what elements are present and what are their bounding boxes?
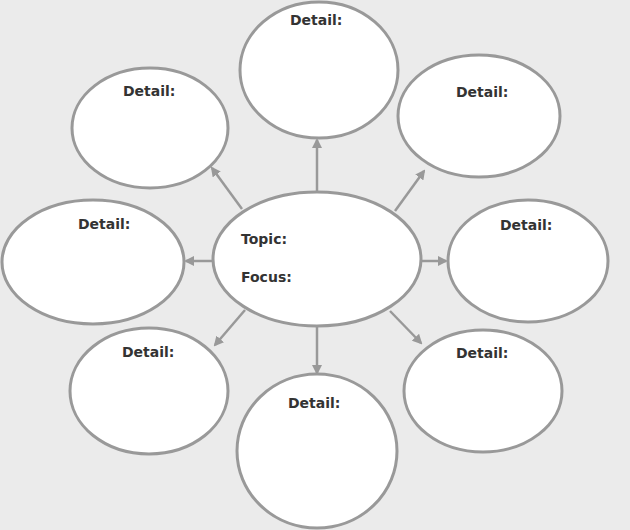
cluster-diagram [0, 0, 630, 530]
detail-label-top-left: Detail: [123, 83, 175, 99]
arrow-to-bottom-left [215, 310, 245, 345]
detail-label-top-right: Detail: [456, 84, 508, 100]
detail-label-bottom: Detail: [288, 395, 340, 411]
arrow-to-top-right [395, 171, 424, 211]
arrow-to-top-left [212, 168, 242, 209]
detail-label-right: Detail: [500, 217, 552, 233]
arrow-to-bottom-right [390, 311, 421, 343]
topic-label: Topic: [241, 231, 287, 247]
detail-label-bottom-right: Detail: [456, 345, 508, 361]
topic-bubble [213, 192, 421, 326]
focus-label: Focus: [241, 269, 292, 285]
detail-label-bottom-left: Detail: [122, 344, 174, 360]
detail-label-left: Detail: [78, 216, 130, 232]
detail-bubble-top-right [398, 55, 560, 177]
detail-label-top: Detail: [290, 12, 342, 28]
